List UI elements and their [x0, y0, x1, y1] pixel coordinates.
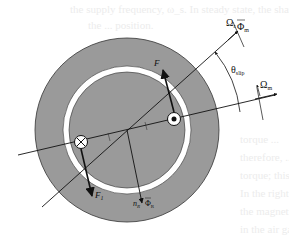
omega-m-label: Ωm	[260, 79, 272, 91]
omega-r-label: Ωr	[226, 17, 235, 29]
omega-m-tick	[257, 88, 263, 120]
phi-m-label: Φm	[237, 21, 249, 33]
machine-diagram: Ωr Φm θslip Ωm F F1 nR ΦR	[0, 0, 289, 235]
theta-slip-label: θslip	[231, 64, 244, 76]
conductor-into-page	[75, 136, 88, 149]
slip-angle-arc	[215, 52, 240, 112]
conductor-out-of-page	[168, 113, 181, 126]
force-upper-label: F	[153, 58, 160, 68]
phi-m-arrow	[228, 31, 238, 40]
